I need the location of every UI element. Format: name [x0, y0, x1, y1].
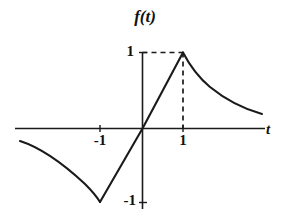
- curve-left-decay: [20, 141, 100, 202]
- plot-canvas: [0, 0, 291, 224]
- y-tick-label-1: 1: [118, 44, 134, 59]
- x-tick-label-1: 1: [175, 133, 191, 148]
- function-plot-figure: f(t) t 1 -1 -1 1: [0, 0, 291, 224]
- y-tick-label-neg1: -1: [112, 193, 136, 208]
- figure-title: f(t): [120, 8, 170, 25]
- x-axis-label: t: [266, 122, 270, 137]
- x-tick-label-neg1: -1: [88, 133, 112, 148]
- curve-linear-ramp: [100, 53, 183, 203]
- curve-right-decay: [183, 53, 262, 115]
